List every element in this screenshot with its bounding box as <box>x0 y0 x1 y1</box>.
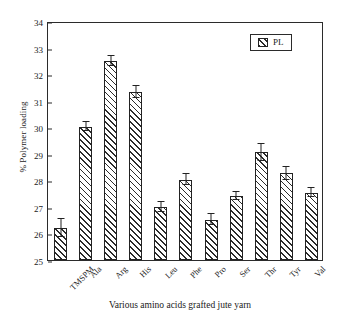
error-bar-cap-lower <box>157 211 164 212</box>
bar-slot <box>274 23 299 260</box>
error-bar-cap-upper <box>308 187 315 188</box>
bar-slot <box>48 23 73 260</box>
y-axis-title: % Polymer loading <box>18 57 28 217</box>
bar <box>179 180 192 260</box>
plot-area: 34333231302928272625 <box>47 22 323 261</box>
error-bar-cap-upper <box>57 218 64 219</box>
x-axis-category-label: Arg <box>113 264 129 280</box>
error-bar-line <box>85 122 86 132</box>
bar <box>154 207 167 260</box>
y-axis-tick-label: 34 <box>34 18 43 28</box>
error-bar-cap-upper <box>82 121 89 122</box>
y-axis-tick-label: 26 <box>34 230 43 240</box>
bar <box>205 220 218 260</box>
error-bar-line <box>311 188 312 197</box>
error-bar-cap-lower <box>132 97 139 98</box>
bar-slot <box>299 23 324 260</box>
error-bar-cap-upper <box>208 213 215 214</box>
bar <box>255 152 268 260</box>
y-axis-tick-label: 33 <box>34 45 43 55</box>
y-axis-tick-label: 31 <box>34 98 43 108</box>
x-axis-tick-mark <box>61 256 62 260</box>
error-bar-cap-upper <box>182 173 189 174</box>
y-axis-tick-label: 27 <box>34 204 43 214</box>
x-axis-category-label: Tyr <box>288 264 303 279</box>
error-bar-line <box>135 86 136 98</box>
error-bar-cap-lower <box>258 160 265 161</box>
bar <box>129 92 142 260</box>
error-bar-cap-lower <box>283 179 290 180</box>
error-bar-line <box>160 202 161 213</box>
y-axis-tick-mark <box>48 155 52 156</box>
x-axis-tick-mark <box>236 256 237 260</box>
x-axis-category-label: Thr <box>263 264 279 280</box>
x-axis-tick-mark <box>86 256 87 260</box>
legend-hatch-swatch-icon <box>258 38 268 47</box>
x-axis-tick-mark <box>311 256 312 260</box>
x-axis-tick-mark <box>186 256 187 260</box>
bar <box>104 61 117 260</box>
bar <box>280 173 293 260</box>
bar <box>305 193 318 260</box>
error-bar-cap-lower <box>208 224 215 225</box>
bar-chart-figure: % Polymer loading 34333231302928272625 V… <box>0 0 337 323</box>
error-bar-cap-upper <box>107 55 114 56</box>
y-axis-tick-label: 32 <box>34 71 43 81</box>
error-bar-line <box>286 167 287 180</box>
y-axis-tick-label: 28 <box>34 177 43 187</box>
bar-slot <box>249 23 274 260</box>
error-bar-cap-lower <box>308 196 315 197</box>
y-axis-tick-mark <box>48 129 52 130</box>
x-axis-tick-mark <box>211 256 212 260</box>
error-bar-cap-lower <box>182 184 189 185</box>
y-axis-tick-label: 29 <box>34 151 43 161</box>
chart-legend: PL <box>250 34 292 51</box>
bar-slot <box>98 23 123 260</box>
legend-label: PL <box>273 38 284 47</box>
bar-slot <box>173 23 198 260</box>
error-bar-cap-lower <box>82 130 89 131</box>
y-axis-tick-mark <box>48 182 52 183</box>
x-axis-category-label: Ser <box>237 264 252 279</box>
bar <box>230 196 243 260</box>
x-axis-tick-mark <box>111 256 112 260</box>
x-axis-tick-mark <box>286 256 287 260</box>
x-axis-tick-mark <box>136 256 137 260</box>
y-axis-tick-mark <box>48 235 52 236</box>
error-bar-cap-upper <box>233 191 240 192</box>
error-bar-cap-lower <box>233 199 240 200</box>
y-axis-tick-mark <box>48 262 52 263</box>
error-bar-cap-upper <box>258 143 265 144</box>
x-axis-category-label: His <box>137 264 152 279</box>
error-bar-cap-lower <box>107 65 114 66</box>
error-bar-cap-upper <box>157 201 164 202</box>
y-axis-tick-mark <box>48 76 52 77</box>
y-axis-tick-label: 25 <box>34 257 43 267</box>
x-axis-category-label: Leu <box>163 264 179 280</box>
error-bar-line <box>236 192 237 200</box>
x-axis-category-label: Phe <box>188 264 204 280</box>
error-bar-cap-lower <box>57 236 64 237</box>
y-axis-tick-mark <box>48 208 52 209</box>
error-bar-cap-upper <box>132 85 139 86</box>
bar-slot <box>224 23 249 260</box>
x-axis-tick-mark <box>261 256 262 260</box>
y-axis-tick-mark <box>48 49 52 50</box>
x-axis-category-label: Pro <box>213 264 228 279</box>
x-axis-title: Various amino acids grafted jute yarn <box>30 300 330 310</box>
error-bar-line <box>261 144 262 161</box>
bar-slot <box>73 23 98 260</box>
error-bar-line <box>110 56 111 67</box>
x-axis-category-label: Val <box>313 264 328 279</box>
y-axis-tick-mark <box>48 23 52 24</box>
y-axis-tick-mark <box>48 102 52 103</box>
error-bar-line <box>211 214 212 226</box>
x-axis-tick-mark <box>161 256 162 260</box>
bar-slot <box>123 23 148 260</box>
bar <box>79 127 92 260</box>
bar-slot <box>199 23 224 260</box>
y-axis-tick-label: 30 <box>34 124 43 134</box>
error-bar-cap-upper <box>283 166 290 167</box>
bar-slot <box>148 23 173 260</box>
error-bar-line <box>185 174 186 185</box>
